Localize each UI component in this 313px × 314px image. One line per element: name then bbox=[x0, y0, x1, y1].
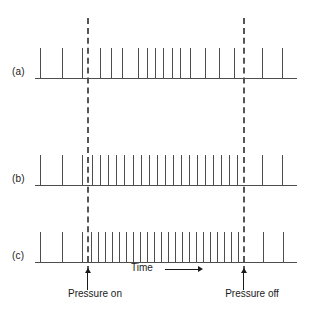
spike-tick bbox=[116, 155, 117, 185]
trace-baseline bbox=[35, 185, 297, 186]
spike-tick bbox=[219, 48, 220, 78]
trace-label-a: (a) bbox=[12, 66, 25, 77]
spike-train-figure: (a) (b) (c) Time Pressure on Pressure of… bbox=[0, 0, 313, 314]
spike-tick bbox=[224, 232, 225, 262]
spike-tick bbox=[100, 155, 101, 185]
spike-tick bbox=[92, 155, 93, 185]
spike-tick bbox=[124, 155, 125, 185]
spike-tick bbox=[149, 155, 150, 185]
spike-tick bbox=[126, 232, 127, 262]
spike-tick bbox=[180, 48, 181, 78]
spike-tick bbox=[165, 155, 166, 185]
spike-tick bbox=[161, 232, 162, 262]
spike-tick bbox=[154, 232, 155, 262]
spike-tick bbox=[62, 232, 63, 262]
spike-tick bbox=[40, 155, 41, 185]
spike-tick bbox=[237, 155, 238, 185]
spike-tick bbox=[122, 48, 123, 78]
spike-tick bbox=[100, 48, 101, 78]
spike-tick bbox=[282, 155, 283, 185]
pressure-off-dashed-line bbox=[243, 18, 245, 272]
spike-tick bbox=[91, 232, 92, 262]
spike-tick bbox=[62, 155, 63, 185]
spike-tick bbox=[111, 48, 112, 78]
spike-tick bbox=[105, 232, 106, 262]
spike-tick bbox=[205, 48, 206, 78]
spike-tick bbox=[155, 48, 156, 78]
spike-tick bbox=[140, 232, 141, 262]
trace-label-b: (b) bbox=[12, 173, 25, 184]
spike-tick bbox=[262, 48, 263, 78]
spike-tick bbox=[182, 232, 183, 262]
time-axis-label: Time bbox=[131, 262, 153, 273]
spike-tick bbox=[229, 155, 230, 185]
spike-tick bbox=[197, 155, 198, 185]
spike-tick bbox=[282, 48, 283, 78]
pressure-on-dashed-line bbox=[87, 18, 89, 272]
spike-tick bbox=[221, 155, 222, 185]
spike-tick bbox=[231, 232, 232, 262]
spike-tick bbox=[203, 232, 204, 262]
spike-tick bbox=[112, 232, 113, 262]
spike-tick bbox=[190, 48, 191, 78]
spike-tick bbox=[263, 232, 264, 262]
spike-tick bbox=[98, 232, 99, 262]
spike-tick bbox=[157, 155, 158, 185]
spike-tick bbox=[172, 48, 173, 78]
spike-tick bbox=[133, 232, 134, 262]
spike-tick bbox=[40, 232, 41, 262]
spike-tick bbox=[108, 155, 109, 185]
trace-label-c: (c) bbox=[12, 250, 24, 261]
spike-tick bbox=[147, 48, 148, 78]
pressure-off-label: Pressure off bbox=[225, 288, 279, 299]
spike-tick bbox=[217, 232, 218, 262]
spike-tick bbox=[189, 155, 190, 185]
spike-tick bbox=[147, 232, 148, 262]
spike-tick bbox=[82, 155, 83, 185]
time-arrow-head-icon bbox=[198, 266, 203, 272]
spike-tick bbox=[163, 48, 164, 78]
spike-tick bbox=[133, 155, 134, 185]
spike-tick bbox=[175, 232, 176, 262]
spike-tick bbox=[213, 155, 214, 185]
spike-tick bbox=[283, 232, 284, 262]
time-arrow-icon bbox=[165, 269, 199, 270]
spike-tick bbox=[62, 48, 63, 78]
spike-tick bbox=[189, 232, 190, 262]
trace-baseline bbox=[35, 262, 297, 263]
spike-tick bbox=[119, 232, 120, 262]
pressure-off-arrow-head-icon bbox=[241, 268, 247, 273]
spike-tick bbox=[196, 232, 197, 262]
spike-tick bbox=[210, 232, 211, 262]
spike-tick bbox=[168, 232, 169, 262]
spike-tick bbox=[181, 155, 182, 185]
pressure-on-label: Pressure on bbox=[68, 288, 122, 299]
spike-tick bbox=[238, 232, 239, 262]
spike-tick bbox=[234, 48, 235, 78]
trace-baseline bbox=[35, 78, 297, 79]
spike-tick bbox=[141, 155, 142, 185]
spike-tick bbox=[173, 155, 174, 185]
spike-tick bbox=[82, 232, 83, 262]
spike-tick bbox=[82, 48, 83, 78]
spike-tick bbox=[40, 48, 41, 78]
pressure-on-arrow-head-icon bbox=[85, 268, 91, 273]
spike-tick bbox=[138, 48, 139, 78]
spike-tick bbox=[262, 155, 263, 185]
spike-tick bbox=[205, 155, 206, 185]
